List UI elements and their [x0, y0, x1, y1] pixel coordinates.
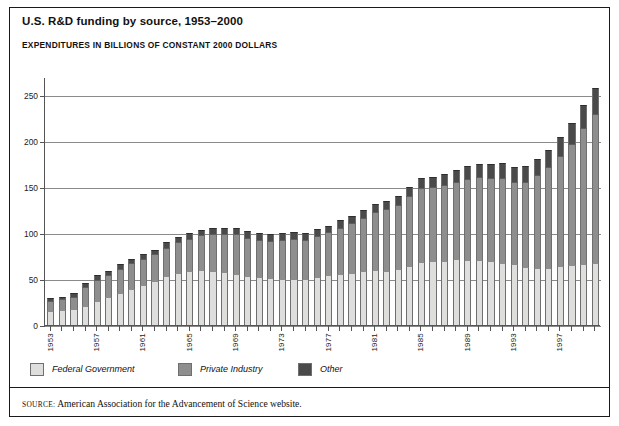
bar-segment-other	[383, 201, 390, 209]
bar-segment-other	[580, 105, 587, 129]
x-axis-label-1973: 1973	[277, 333, 286, 352]
bar-segment-federal	[545, 268, 552, 325]
bar-segment-private	[476, 177, 483, 260]
x-axis-tick	[571, 326, 572, 331]
bar-segment-federal	[592, 263, 599, 325]
bar-segment-federal	[568, 265, 575, 325]
bar-segment-federal	[221, 272, 228, 325]
x-axis-tick	[73, 326, 74, 331]
bar-segment-other	[418, 178, 425, 188]
x-axis-tick	[513, 326, 514, 331]
bar-segment-private	[487, 178, 494, 261]
bar-1962	[151, 250, 158, 325]
x-axis-tick	[61, 326, 62, 331]
bar-segment-federal	[94, 301, 101, 325]
bar-segment-other	[70, 293, 77, 297]
legend-swatch-private	[178, 363, 192, 376]
bar-segment-other	[476, 164, 483, 177]
legend-label-federal: Federal Government	[52, 364, 135, 374]
bar-segment-other	[163, 242, 170, 248]
bar-segment-other	[82, 283, 89, 288]
bar-segment-federal	[372, 270, 379, 325]
source-divider	[10, 387, 609, 388]
bar-segment-private	[128, 263, 135, 289]
x-axis-tick	[154, 326, 155, 331]
x-axis-tick	[502, 326, 503, 331]
bar-segment-other	[198, 230, 205, 236]
bar-segment-other	[59, 297, 66, 300]
bar-segment-private	[499, 178, 506, 263]
chart-legend: Federal GovernmentPrivate IndustryOther	[30, 360, 450, 382]
bar-segment-other	[244, 231, 251, 237]
bar-segment-other	[337, 220, 344, 227]
bar-segment-federal	[209, 271, 216, 325]
x-axis-tick	[363, 326, 364, 331]
bar-segment-other	[94, 275, 101, 280]
x-axis-tick	[212, 326, 213, 331]
bar-1971	[256, 233, 263, 325]
bar-segment-federal	[406, 266, 413, 325]
bar-segment-other	[453, 170, 460, 182]
bar-segment-federal	[82, 306, 89, 325]
bar-segment-federal	[429, 261, 436, 325]
bar-segment-private	[545, 167, 552, 268]
x-axis-tick	[432, 326, 433, 331]
bar-segment-federal	[534, 268, 541, 325]
bar-1996	[545, 150, 552, 325]
bar-segment-other	[360, 210, 367, 217]
bar-segment-private	[221, 234, 228, 272]
bar-segment-federal	[395, 269, 402, 325]
bar-segment-federal	[70, 309, 77, 325]
bar-segment-federal	[117, 293, 124, 325]
x-axis-tick	[420, 326, 421, 331]
bar-segment-other	[256, 233, 263, 239]
bar-segment-federal	[453, 259, 460, 325]
bar-segment-private	[383, 209, 390, 271]
bar-segment-federal	[314, 277, 321, 325]
bar-1964	[175, 237, 182, 325]
x-axis-tick	[305, 326, 306, 331]
bar-1994	[522, 166, 529, 325]
bar-segment-federal	[487, 261, 494, 325]
bar-segment-federal	[476, 260, 483, 325]
bar-segment-other	[441, 174, 448, 185]
bar-segment-private	[105, 275, 112, 297]
bar-segment-private	[233, 234, 240, 273]
bar-segment-federal	[418, 262, 425, 325]
x-axis-label-1953: 1953	[46, 333, 55, 352]
x-axis-tick	[409, 326, 410, 331]
bar-1965	[186, 233, 193, 325]
bar-segment-federal	[105, 297, 112, 325]
bar-segment-private	[82, 287, 89, 305]
y-axis-label: 150	[4, 183, 38, 193]
bar-segment-other	[395, 196, 402, 205]
x-axis-tick	[270, 326, 271, 331]
bar-segment-other	[464, 166, 471, 179]
x-axis-label-1965: 1965	[185, 333, 194, 352]
x-axis-tick	[281, 326, 282, 331]
bar-segment-other	[522, 166, 529, 182]
bar-2000	[592, 88, 599, 325]
bar-1959	[117, 264, 124, 325]
bar-segment-other	[128, 259, 135, 264]
x-axis-tick	[583, 326, 584, 331]
y-axis-label: 250	[4, 91, 38, 101]
bar-segment-private	[406, 196, 413, 266]
bar-1976	[314, 229, 321, 325]
chart-title: U.S. R&D funding by source, 1953–2000	[22, 15, 243, 27]
bar-segment-federal	[337, 274, 344, 325]
bar-1979	[348, 216, 355, 325]
bar-segment-federal	[511, 264, 518, 325]
bar-segment-other	[221, 228, 228, 234]
bar-segment-federal	[267, 278, 274, 325]
bar-1993	[511, 167, 518, 325]
bar-segment-federal	[557, 266, 564, 325]
x-axis-tick	[339, 326, 340, 331]
bar-segment-private	[209, 234, 216, 271]
bar-segment-other	[47, 298, 54, 301]
bar-segment-other	[406, 187, 413, 196]
bar-1982	[383, 201, 390, 325]
bar-segment-federal	[499, 263, 506, 325]
bar-1958	[105, 271, 112, 325]
bar-segment-other	[302, 233, 309, 239]
